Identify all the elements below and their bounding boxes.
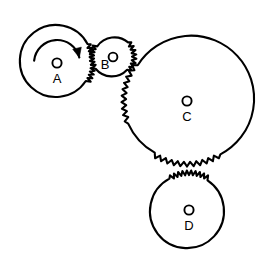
gear-c: C bbox=[121, 36, 254, 167]
gear-d-label: D bbox=[184, 218, 193, 233]
gear-d: D bbox=[150, 171, 224, 249]
gear-train-figure: A B C D bbox=[0, 0, 274, 261]
gear-b-label: B bbox=[101, 57, 110, 72]
gear-a: A bbox=[20, 25, 96, 97]
gear-diagram: A B C D bbox=[0, 0, 274, 261]
gear-c-label: C bbox=[182, 109, 191, 124]
gear-a-label: A bbox=[53, 71, 62, 86]
gear-d-outline bbox=[150, 171, 224, 249]
gear-c-outline bbox=[121, 36, 254, 167]
